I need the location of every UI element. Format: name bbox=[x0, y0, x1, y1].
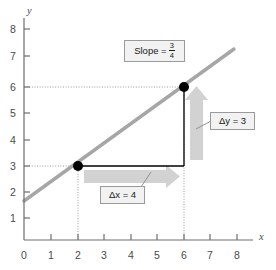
x-tick-label-6: 6 bbox=[177, 250, 191, 261]
data-point-6-6-marker bbox=[179, 82, 189, 92]
slope-numerator: 3 bbox=[169, 42, 175, 51]
y-tick-label-4: 4 bbox=[6, 135, 20, 146]
y-tick-label-1: 1 bbox=[6, 213, 20, 224]
delta-y-arrow bbox=[185, 86, 208, 160]
delta-y-callout-box: Δy = 3 bbox=[210, 112, 255, 130]
y-tick-label-2: 2 bbox=[6, 187, 20, 198]
slope-denominator: 4 bbox=[169, 51, 175, 59]
x-tick-label-2: 2 bbox=[71, 250, 85, 261]
y-tick-label-8: 8 bbox=[6, 24, 20, 35]
x-axis-ticks bbox=[51, 234, 237, 240]
x-tick-label-4: 4 bbox=[124, 250, 138, 261]
y-tick-label-7: 7 bbox=[6, 51, 20, 62]
y-axis-label: y bbox=[27, 6, 32, 17]
slope-callout-box: Slope = 3 4 bbox=[124, 40, 185, 62]
x-tick-label-5: 5 bbox=[150, 250, 164, 261]
delta-x-callout-box: Δx = 4 bbox=[100, 186, 145, 204]
slope-diagram-figure: y x 8 7 6 5 4 3 2 1 0 1 2 3 4 5 6 7 8 Sl… bbox=[0, 0, 276, 270]
y-tick-label-6: 6 bbox=[6, 82, 20, 93]
x-tick-label-0: 0 bbox=[17, 250, 31, 261]
data-point-2-3 bbox=[73, 161, 83, 171]
slope-fraction: 3 4 bbox=[169, 42, 175, 59]
x-tick-label-3: 3 bbox=[97, 250, 111, 261]
x-axis-label: x bbox=[259, 232, 264, 243]
y-axis-ticks bbox=[24, 29, 30, 218]
y-tick-label-5: 5 bbox=[6, 108, 20, 119]
x-tick-label-8: 8 bbox=[230, 250, 244, 261]
delta-x-arrow bbox=[84, 165, 180, 188]
slope-prefix-text: Slope = bbox=[134, 46, 167, 56]
x-tick-label-1: 1 bbox=[44, 250, 58, 261]
y-tick-label-3: 3 bbox=[6, 161, 20, 172]
x-tick-label-7: 7 bbox=[203, 250, 217, 261]
